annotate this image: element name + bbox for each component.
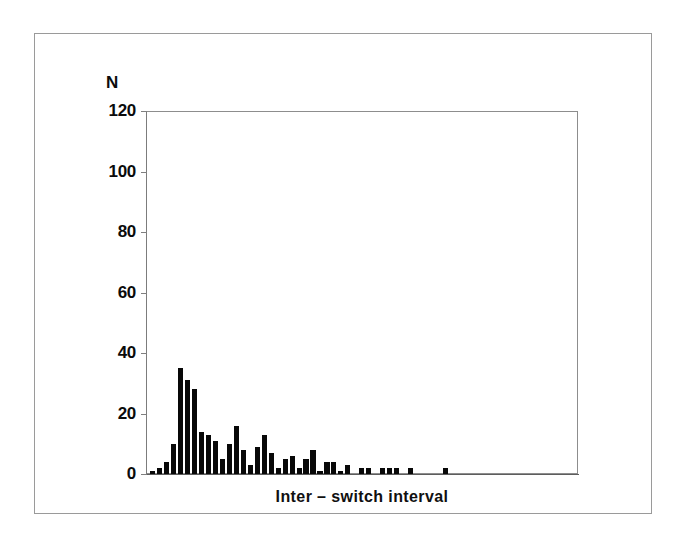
y-tick-label: 20: [90, 405, 136, 422]
histogram-bar: [359, 468, 364, 474]
histogram-bar: [262, 435, 267, 474]
histogram-bar: [255, 447, 260, 474]
histogram-bar: [234, 426, 239, 474]
histogram-bar: [290, 456, 295, 474]
histogram-bar: [310, 450, 315, 474]
histogram-bar: [297, 468, 302, 474]
y-tick-mark: [141, 353, 147, 354]
histogram-bar: [366, 468, 371, 474]
figure-canvas: N 120100806040200 Inter – switch interva…: [0, 0, 687, 544]
histogram-bar: [192, 389, 197, 474]
histogram-bar: [317, 471, 322, 474]
histogram-bar: [178, 368, 183, 474]
y-tick-label: 60: [90, 284, 136, 301]
y-tick-label: 100: [90, 163, 136, 180]
histogram-bar: [276, 468, 281, 474]
histogram-bar: [283, 459, 288, 474]
histogram-bar: [324, 462, 329, 474]
y-tick-mark: [141, 414, 147, 415]
histogram-bar: [227, 444, 232, 474]
histogram-bar: [171, 444, 176, 474]
histogram-bar: [199, 432, 204, 474]
y-tick-label: 120: [90, 102, 136, 119]
y-tick-label-group: 120100806040200: [86, 0, 136, 544]
histogram-bar: [241, 450, 246, 474]
histogram-bar: [248, 465, 253, 474]
y-tick-label: 40: [90, 344, 136, 361]
histogram-bar: [164, 462, 169, 474]
y-tick-mark: [141, 293, 147, 294]
y-tick-mark: [141, 172, 147, 173]
y-tick-mark: [141, 474, 147, 475]
histogram-bar: [345, 465, 350, 474]
histogram-bar: [408, 468, 413, 474]
x-axis-spine: [146, 474, 579, 475]
histogram-bar: [220, 459, 225, 474]
x-axis-title: Inter – switch interval: [146, 489, 578, 505]
y-tick-label: 80: [90, 223, 136, 240]
histogram-bar: [394, 468, 399, 474]
y-tick-label: 0: [90, 465, 136, 482]
histogram-bar: [387, 468, 392, 474]
y-tick-mark: [141, 232, 147, 233]
histogram-bar: [150, 471, 155, 474]
histogram-bars: [146, 111, 578, 474]
histogram-bar: [157, 468, 162, 474]
histogram-bar: [206, 435, 211, 474]
histogram-bar: [213, 441, 218, 474]
histogram-bar: [269, 453, 274, 474]
histogram-bar: [331, 462, 336, 474]
y-tick-mark: [141, 111, 147, 112]
histogram-bar: [443, 468, 448, 474]
histogram-bar: [185, 380, 190, 474]
histogram-bar: [303, 459, 308, 474]
histogram-bar: [338, 471, 343, 474]
histogram-bar: [380, 468, 385, 474]
